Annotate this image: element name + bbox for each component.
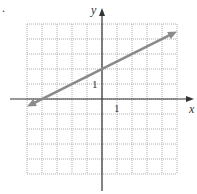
item-marker: . — [2, 1, 5, 15]
y-axis-arrow-icon — [99, 8, 105, 16]
x-tick-label-1: 1 — [114, 102, 120, 114]
y-tick-label-1: 1 — [92, 78, 98, 90]
x-axis-label: x — [188, 102, 195, 116]
y-axis-label: y — [90, 3, 97, 17]
coordinate-graph: . x y 1 1 — [0, 0, 197, 194]
